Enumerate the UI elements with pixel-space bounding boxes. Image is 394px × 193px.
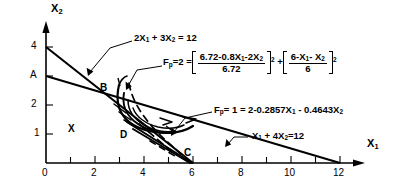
y-axis-arrowhead (42, 21, 49, 33)
descent-path-lines (127, 122, 192, 163)
x-tick-label-4: 4 (140, 168, 146, 178)
fp2-exp-1: 2 (271, 56, 275, 63)
eq1-sub-b: 2 (172, 36, 176, 43)
fp2-t2-mid: - X (309, 51, 321, 62)
leader-fp2 (128, 66, 162, 86)
contour-fp2-arrow-a (160, 118, 172, 125)
fp2-exp-2: 2 (333, 56, 337, 63)
vertex-label-B: B (100, 83, 107, 93)
equation-penalty-fp1: Fp= 1 = 2-0.2857X1 - 0.4643X2 (214, 105, 343, 116)
equation-penalty-fp2: Fp=2 = 6.72-0.8X1-2X2 6.72 2 + 6-X1- X2 … (163, 51, 337, 74)
equation-constraint1: 2X1 + 3X2 = 12 (134, 33, 197, 44)
fp1-minus: - (298, 104, 301, 115)
fp1-rhs-b-sub: 2 (339, 108, 343, 115)
fp2-t2-num: 6-X (291, 51, 306, 62)
fp1-rhs-a: 2-0.2857X (248, 104, 292, 115)
x-tick-label-6: 6 (189, 168, 195, 178)
contour-fp1-dashed-bottom (150, 141, 178, 158)
plot-canvas (0, 0, 394, 193)
vertex-label-D: D (120, 130, 127, 140)
y-tick-label-4: 4 (31, 41, 37, 51)
fp2-t1-num: 6.72-0.8X (200, 51, 241, 62)
eq2-rhs: 12 (294, 130, 305, 141)
x-axis-arrowhead (353, 159, 365, 166)
fp1-rhs-a-sub: 1 (292, 108, 296, 115)
eq1-sub-a: 1 (146, 36, 150, 43)
fp1-equals: = (240, 104, 246, 115)
fp2-t1-sub2: 2 (259, 55, 263, 62)
eq1-term-a: 2X (134, 32, 146, 43)
y-tick-label-1: 1 (34, 128, 40, 138)
leader-constraint2-arrowhead (225, 139, 231, 147)
fp2-name-val: =2 (173, 56, 184, 67)
x-tick-label-12: 12 (333, 168, 344, 178)
fp1-rhs-b: 0.4643X (304, 104, 339, 115)
eq2-plus: + (265, 130, 271, 141)
figure-linear-programming-penalty-contours: X2 X1 4 A 2 1 0 2 4 6 8 10 12 B D C X 2X… (0, 0, 394, 193)
y-axis-label: X2 (51, 3, 63, 15)
leader-constraint1 (90, 41, 132, 72)
fp2-t1-mid: -2X (245, 51, 260, 62)
eq1-term-b: 3X (160, 32, 172, 43)
eq1-equals: = (178, 32, 184, 43)
feasible-region-label: X (68, 124, 75, 134)
fp2-t2-den: 6 (289, 64, 327, 74)
eq1-plus: + (152, 32, 158, 43)
x-axis-label: X1 (367, 138, 379, 150)
fp2-bracket-1: 6.72-0.8X1-2X2 6.72 (192, 51, 271, 74)
y-tick-label-A: A (30, 70, 37, 80)
eq1-rhs: 12 (186, 32, 197, 43)
eq2-sub-a: 1 (258, 134, 262, 141)
y-axis-ticks (46, 47, 53, 134)
x-tick-label-10: 10 (284, 168, 295, 178)
x-axis-ticks (71, 156, 341, 163)
fp2-bracket-2: 6-X1- X2 6 (283, 51, 333, 74)
leader-constraint2 (228, 137, 248, 144)
fp1-name-val: = 1 (224, 104, 237, 115)
x-tick-label-0: 0 (42, 168, 48, 178)
vertex-label-C: C (184, 148, 191, 158)
fp2-t1-den: 6.72 (198, 64, 265, 74)
x-tick-label-2: 2 (91, 168, 97, 178)
fp2-t2-sub2: 2 (321, 55, 325, 62)
eq2-term-b: 4X (273, 130, 285, 141)
x-tick-label-8: 8 (238, 168, 244, 178)
y-tick-label-2: 2 (31, 99, 37, 109)
equation-constraint2: X1 + 4X2=12 (252, 131, 304, 142)
